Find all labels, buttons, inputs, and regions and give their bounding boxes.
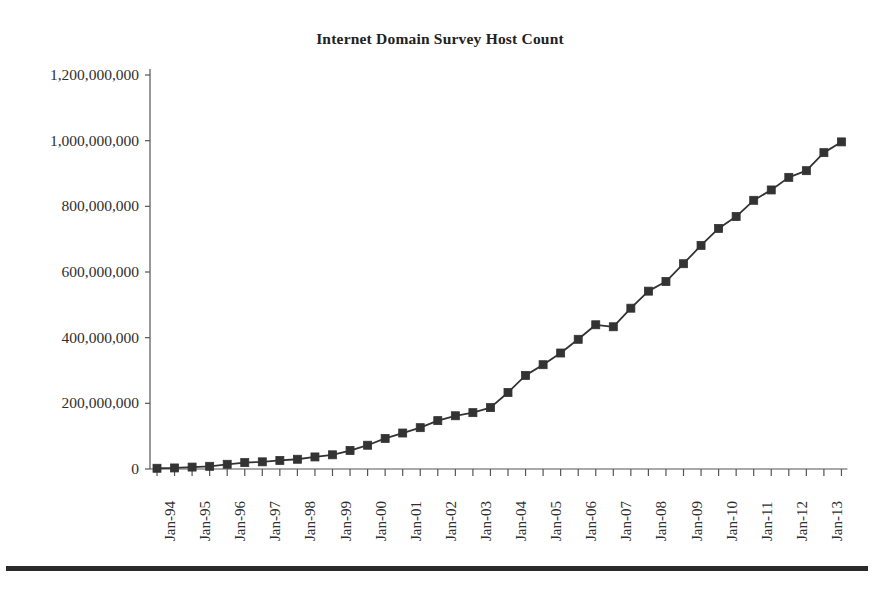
data-point-marker <box>381 434 389 442</box>
data-point-marker <box>785 173 793 181</box>
x-axis-tick-label: Jan-12 <box>795 501 810 541</box>
x-axis-tick-label: Jan-98 <box>303 501 318 541</box>
data-point-marker <box>399 429 407 437</box>
y-axis-tick-label: 1,200,000,000 <box>0 67 139 83</box>
data-point-markers <box>153 138 845 472</box>
y-axis-tick-label: 200,000,000 <box>0 395 139 411</box>
x-axis-tick-label: Jan-00 <box>374 501 389 541</box>
data-point-marker <box>241 459 249 467</box>
data-point-marker <box>364 441 372 449</box>
data-point-marker <box>539 361 547 369</box>
data-point-marker <box>486 404 494 412</box>
data-point-marker <box>802 167 810 175</box>
y-axis-tick-label: 800,000,000 <box>0 198 139 214</box>
bottom-divider <box>6 566 868 571</box>
x-axis-tick-label: Jan-09 <box>690 501 705 541</box>
x-axis-tick-label: Jan-05 <box>549 501 564 541</box>
x-axis-tick-label: Jan-07 <box>619 501 634 541</box>
x-axis-ticks <box>157 469 841 476</box>
x-axis-tick-label: Jan-10 <box>725 501 740 541</box>
data-point-marker <box>171 464 179 472</box>
axis-lines <box>150 69 847 469</box>
x-axis-tick-label: Jan-96 <box>233 501 248 541</box>
data-point-marker <box>697 241 705 249</box>
data-point-marker <box>522 371 530 379</box>
data-point-marker <box>837 138 845 146</box>
x-axis-tick-label: Jan-04 <box>514 501 529 541</box>
data-series-line <box>157 142 841 468</box>
x-axis-tick-label: Jan-01 <box>409 501 424 541</box>
data-point-marker <box>188 463 196 471</box>
x-axis-tick-label: Jan-94 <box>163 501 178 541</box>
data-point-marker <box>293 455 301 463</box>
data-point-marker <box>574 335 582 343</box>
x-axis-tick-label: Jan-95 <box>198 501 213 541</box>
data-point-marker <box>311 453 319 461</box>
x-axis-tick-label: Jan-03 <box>479 501 494 541</box>
data-point-marker <box>557 349 565 357</box>
data-point-marker <box>592 321 600 329</box>
data-point-marker <box>416 424 424 432</box>
y-axis-tick-label: 400,000,000 <box>0 330 139 346</box>
x-axis-tick-label: Jan-08 <box>654 501 669 541</box>
x-axis-tick-label: Jan-99 <box>339 501 354 541</box>
data-point-marker <box>153 464 161 472</box>
data-point-marker <box>451 412 459 420</box>
data-point-marker <box>767 186 775 194</box>
data-point-marker <box>644 287 652 295</box>
plot-area <box>0 0 880 591</box>
y-axis-tick-label: 0 <box>0 461 139 477</box>
data-point-marker <box>504 388 512 396</box>
x-axis-tick-label: Jan-97 <box>268 501 283 541</box>
data-point-marker <box>276 456 284 464</box>
data-point-marker <box>609 323 617 331</box>
data-point-marker <box>662 278 670 286</box>
data-point-marker <box>680 260 688 268</box>
y-axis-tick-label: 1,000,000,000 <box>0 133 139 149</box>
y-axis-tick-label: 600,000,000 <box>0 264 139 280</box>
data-point-marker <box>434 417 442 425</box>
data-point-marker <box>223 460 231 468</box>
x-axis-tick-label: Jan-13 <box>830 501 845 541</box>
data-point-marker <box>346 447 354 455</box>
data-point-marker <box>206 462 214 470</box>
data-point-marker <box>258 458 266 466</box>
data-point-marker <box>750 196 758 204</box>
data-point-marker <box>715 224 723 232</box>
x-axis-tick-label: Jan-11 <box>760 502 775 541</box>
data-point-marker <box>329 451 337 459</box>
x-axis-tick-label: Jan-02 <box>444 501 459 541</box>
data-point-marker <box>469 409 477 417</box>
x-axis-tick-label: Jan-06 <box>584 501 599 541</box>
chart-figure: Internet Domain Survey Host Count 0200,0… <box>0 0 880 591</box>
data-point-marker <box>820 149 828 157</box>
data-point-marker <box>627 304 635 312</box>
y-axis-ticks <box>145 75 150 469</box>
data-point-marker <box>732 213 740 221</box>
